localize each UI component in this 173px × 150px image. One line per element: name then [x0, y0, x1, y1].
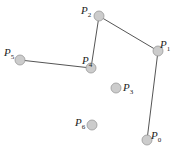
- label-p6: P6: [74, 116, 86, 131]
- label-p2: P2: [80, 4, 92, 19]
- edge-p1-p2: [99, 16, 158, 51]
- point-p5: [15, 55, 25, 65]
- points: [15, 11, 163, 145]
- point-labels: P0P1P2P3P4P5P6: [3, 4, 171, 144]
- label-p3: P3: [122, 81, 134, 96]
- point-p2: [94, 11, 104, 21]
- point-diagram: P0P1P2P3P4P5P6: [0, 0, 173, 150]
- label-p5: P5: [3, 46, 15, 61]
- edge-p4-p5: [20, 60, 91, 68]
- edge-p0-p1: [147, 51, 158, 140]
- point-p6: [87, 120, 97, 130]
- point-p3: [111, 83, 121, 93]
